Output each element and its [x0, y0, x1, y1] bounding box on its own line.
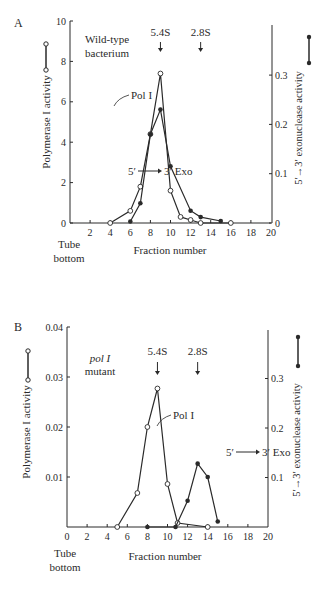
- svg-text:12: 12: [186, 227, 196, 238]
- svg-text:0.04: 0.04: [46, 322, 64, 333]
- svg-text:6: 6: [125, 531, 130, 542]
- svg-text:8: 8: [148, 227, 153, 238]
- x-axis-label-b: Fraction number: [128, 550, 201, 562]
- svg-text:14: 14: [203, 531, 213, 542]
- plot-b: 0.010.020.030.040.10.20.3024681012141618…: [26, 322, 300, 543]
- svg-text:3′ Exo: 3′ Exo: [164, 165, 193, 177]
- annotation-mutant: mutant: [85, 365, 116, 377]
- svg-text:18: 18: [246, 227, 256, 238]
- svg-text:2.8S: 2.8S: [188, 345, 208, 357]
- svg-text:5′: 5′: [226, 446, 234, 458]
- bottom-label-a: bottom: [53, 252, 85, 264]
- y-axis-label-b: Polymerase I activity: [20, 385, 32, 479]
- svg-text:8: 8: [61, 56, 66, 67]
- svg-text:6: 6: [61, 96, 66, 107]
- svg-text:0: 0: [65, 531, 70, 542]
- svg-text:Pol I: Pol I: [131, 89, 152, 101]
- svg-text:12: 12: [183, 531, 193, 542]
- svg-text:10: 10: [163, 531, 173, 542]
- y-axis-right-label-b: 5′→3′ exonuclease activity: [291, 382, 302, 496]
- svg-text:8: 8: [145, 531, 150, 542]
- svg-text:20: 20: [263, 531, 273, 542]
- svg-text:16: 16: [223, 531, 233, 542]
- bottom-label-b: bottom: [49, 561, 81, 573]
- annotation-pol-i: pol I: [89, 352, 112, 364]
- svg-text:5.4S: 5.4S: [151, 26, 171, 38]
- svg-text:0.01: 0.01: [46, 472, 64, 483]
- plot-a: 024681000.10.20.324681012141618205.4S2.8…: [44, 16, 311, 239]
- svg-text:4: 4: [108, 227, 113, 238]
- svg-text:0.2: 0.2: [271, 423, 284, 434]
- x-axis-label-a: Fraction number: [133, 244, 206, 256]
- svg-text:0.02: 0.02: [46, 422, 64, 433]
- svg-text:4: 4: [61, 137, 66, 148]
- svg-text:0.1: 0.1: [275, 168, 288, 179]
- svg-text:10: 10: [166, 227, 176, 238]
- svg-text:16: 16: [226, 227, 236, 238]
- svg-text:2: 2: [61, 177, 66, 188]
- svg-text:18: 18: [243, 531, 253, 542]
- svg-text:14: 14: [206, 227, 216, 238]
- svg-text:0.03: 0.03: [46, 372, 64, 383]
- annotation-wildtype: Wild-type: [85, 33, 129, 45]
- svg-text:6: 6: [128, 227, 133, 238]
- svg-text:0.1: 0.1: [271, 472, 284, 483]
- svg-text:5.4S: 5.4S: [148, 345, 168, 357]
- panel-b-label: B: [14, 320, 22, 334]
- svg-text:2: 2: [88, 227, 93, 238]
- svg-text:20: 20: [266, 227, 276, 238]
- svg-text:3′ Exo: 3′ Exo: [262, 446, 291, 458]
- svg-text:10: 10: [56, 16, 66, 27]
- chart-figure: A Wild-type bacterium 024681000.10.20.32…: [0, 0, 322, 592]
- svg-text:0.3: 0.3: [275, 70, 288, 81]
- svg-text:0.3: 0.3: [271, 373, 284, 384]
- panel-a: A Wild-type bacterium 024681000.10.20.32…: [14, 16, 311, 265]
- svg-text:2.8S: 2.8S: [191, 26, 211, 38]
- tube-label-b: Tube: [54, 547, 76, 559]
- svg-text:5′: 5′: [128, 165, 136, 177]
- y-axis-label-a: Polymerase I activity: [40, 75, 52, 169]
- svg-text:4: 4: [105, 531, 110, 542]
- panel-a-label: A: [14, 16, 23, 30]
- panel-b: B pol I mutant 0.010.020.030.040.10.20.3…: [14, 320, 302, 573]
- svg-text:2: 2: [85, 531, 90, 542]
- tube-label-a: Tube: [58, 238, 80, 250]
- svg-text:0: 0: [61, 218, 66, 229]
- y-axis-right-label-a: 5′→3′ exonuclease activity: [293, 70, 304, 184]
- annotation-bacterium: bacterium: [85, 47, 129, 59]
- svg-text:Pol I: Pol I: [173, 409, 194, 421]
- svg-text:0.2: 0.2: [275, 119, 288, 130]
